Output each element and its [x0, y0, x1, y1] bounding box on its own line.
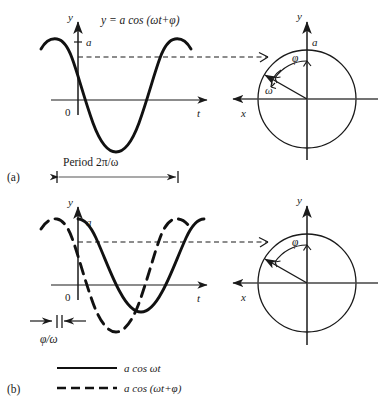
circle-amplitude-label-a: a: [312, 36, 318, 48]
panel-a-label: (a): [7, 171, 20, 184]
oscillation-phasor-figure: y = a cos (ωt+φ) y t 0 a Period 2π/ω (a)…: [0, 0, 390, 408]
y-axis-label-b: y: [67, 196, 73, 208]
title-equation: y = a cos (ωt+φ): [100, 14, 180, 27]
y-axis-label-a: y: [67, 11, 73, 23]
legend-label-dashed: a cos (ωt+φ): [124, 382, 182, 395]
period-label: Period 2π/ω: [63, 156, 119, 168]
panel-b-label: (b): [7, 383, 21, 396]
origin-label-b: 0: [65, 291, 71, 303]
origin-label-a: 0: [65, 106, 71, 118]
circle-y-label-b: y: [296, 194, 302, 206]
legend-label-solid: a cos ωt: [124, 362, 161, 374]
amplitude-label-a: a: [86, 36, 92, 48]
circle-x-label-a: x: [240, 107, 246, 119]
omega-label-a: ω: [265, 84, 273, 96]
figure-background: [0, 0, 390, 408]
phase-shift-label: φ/ω: [40, 333, 58, 346]
phi-label-b: φ: [292, 236, 299, 249]
phi-label-a: φ: [292, 52, 299, 65]
circle-y-label-a: y: [296, 10, 302, 22]
circle-x-label-b: x: [240, 291, 246, 303]
